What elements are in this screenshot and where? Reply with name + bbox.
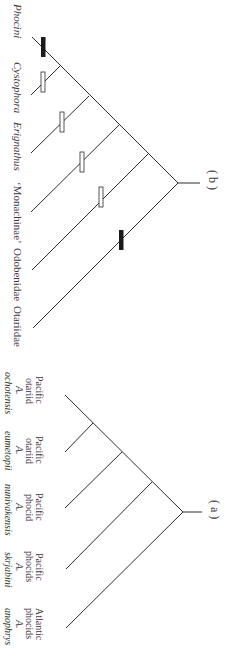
taxon-label-ochotensis: Pacific otariid A. ochotensis xyxy=(3,372,45,414)
branch-cystophora xyxy=(31,66,60,95)
species: anophrys xyxy=(3,608,14,645)
genus: A. xyxy=(14,445,25,455)
branch-odobenidae xyxy=(32,154,148,270)
panel-a-spine xyxy=(65,395,183,512)
species: skrjabini xyxy=(3,552,14,588)
panel-b-caption: ( b ) xyxy=(206,170,220,190)
branch-nunivakensis xyxy=(65,452,122,508)
species: nunivakensis xyxy=(3,484,14,536)
panel-a-caption: ( a ) xyxy=(208,500,222,519)
taxon-label-skrjabini: Pacific phocids A. skrjabini xyxy=(3,551,45,588)
taxon-label-otariidae: Otariidae xyxy=(12,306,24,347)
marker-filled-phocini xyxy=(41,37,46,57)
taxon-label-erignathus: Erignathus xyxy=(12,121,24,171)
taxon-label-phocini: Phocini xyxy=(12,3,24,38)
taxon-label-nunivakensis: Pacific phocid A. nunivakensis xyxy=(3,484,45,536)
branch-monachinae xyxy=(31,125,119,212)
cladogram-figure: Phocini Cystophora Erignathus ‘Monachina… xyxy=(0,0,238,659)
panel-a-labels: Pacific otariid A. ochotensis Pacific ot… xyxy=(3,372,45,645)
marker-open-odobenidae xyxy=(99,187,103,207)
marker-open-cystophora xyxy=(41,72,45,92)
genus: A. xyxy=(14,385,25,395)
taxon-label-anophrys: Atlantic phocids A. anophrys xyxy=(3,608,45,645)
marker-open-erignathus xyxy=(60,112,64,132)
panel-b-tree xyxy=(31,37,200,328)
taxon-label-monachinae: ‘Monachinae’ xyxy=(12,182,24,244)
branch-eumetopii xyxy=(65,423,93,452)
species: eumetopii xyxy=(3,431,14,471)
panel-b-spine xyxy=(32,37,178,183)
genus: A. xyxy=(14,502,25,512)
genus: A. xyxy=(14,619,25,629)
taxon-label-odobenidae: Odobenidae xyxy=(12,248,24,301)
species: ochotensis xyxy=(3,372,14,414)
panel-b-labels: Phocini Cystophora Erignathus ‘Monachina… xyxy=(12,3,24,347)
panel-a-tree xyxy=(65,395,202,628)
marker-filled-otariidae xyxy=(119,230,124,250)
taxon-label-eumetopii: Pacific otariid A. eumetopii xyxy=(3,431,45,471)
marker-open-monachinae xyxy=(80,152,84,172)
branch-anophrys xyxy=(66,512,183,628)
taxon-label-cystophora: Cystophora xyxy=(12,62,24,114)
genus: A. xyxy=(14,562,25,572)
branch-otariidae xyxy=(33,183,178,328)
